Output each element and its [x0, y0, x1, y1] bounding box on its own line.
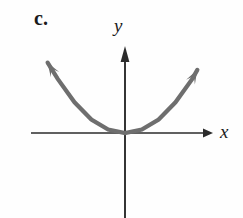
x-axis-arrowhead-icon	[203, 128, 213, 137]
y-axis-arrowhead-icon	[121, 46, 130, 62]
y-axis-label: y	[114, 16, 122, 35]
part-label: c.	[34, 8, 48, 28]
figure-container: c. y x	[0, 0, 243, 218]
parabola-curve	[48, 63, 198, 133]
x-axis-label: x	[220, 122, 228, 141]
